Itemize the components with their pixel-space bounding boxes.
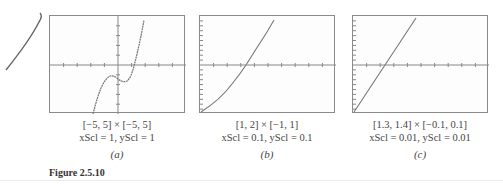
caption-b-scale: xScl = 0.1, yScl = 0.1 [199,131,335,144]
caption-b-window: [1, 2] × [−1, 1] [199,118,335,131]
caption-a-window: [−5, 5] × [−5, 5] [49,118,185,131]
divider [0,180,503,181]
caption-a-scale: xScl = 1, yScl = 1 [49,131,185,144]
graph-a-plot [50,16,186,114]
figure-label: Figure 2.5.10 [49,167,105,178]
graph-c-plot [353,16,489,114]
sublabel-b: (b) [199,148,335,160]
sublabel-a: (a) [49,148,185,160]
graph-panel-a [49,15,185,113]
sublabel-c: (c) [352,148,488,160]
caption-c-window: [1.3, 1.4] × [−0.1, 0.1] [352,118,488,131]
caption-c-scale: xScl = 0.01, yScl = 0.01 [352,131,488,144]
pen-stroke-decoration [0,0,50,80]
graph-panel-b [199,15,335,113]
graph-panel-c [352,15,488,113]
graph-b-plot [200,16,336,114]
